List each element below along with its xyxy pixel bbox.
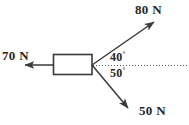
force-diagram: 80 N 70 N 50 N 40° 50°	[0, 0, 189, 125]
degree-symbol-40: °	[123, 50, 126, 58]
angle-value-50: 50	[110, 66, 123, 80]
angle-value-40: 40	[110, 50, 123, 64]
force-label-50n: 50 N	[139, 104, 166, 117]
angle-label-40deg: 40°	[110, 51, 126, 63]
force-label-70n: 70 N	[2, 49, 29, 62]
force-label-80n: 80 N	[135, 3, 162, 16]
degree-symbol-50: °	[123, 66, 126, 74]
block-body	[54, 55, 93, 75]
angle-label-50deg: 50°	[110, 67, 126, 79]
